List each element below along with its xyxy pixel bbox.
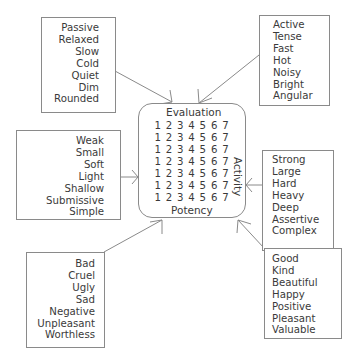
word: Light	[16, 171, 104, 183]
word: Dim	[41, 82, 99, 94]
word-list-mid-left: Weak Small Soft Light Shallow Submissive…	[16, 135, 104, 218]
word: Worthless	[26, 329, 95, 341]
word: Pleasant	[272, 313, 318, 325]
word-list-bottom-left: Bad Cruel Ugly Sad Negative Unpleasant W…	[26, 258, 95, 341]
arrow-bottom-left	[104, 220, 162, 252]
scale-row: 1234567	[152, 180, 231, 191]
scale-row: 1234567	[152, 168, 231, 179]
word: Shallow	[16, 183, 104, 195]
word: Angular	[273, 90, 313, 102]
word: Weak	[16, 135, 104, 147]
arrow-top-left	[115, 71, 172, 102]
word: Good	[272, 253, 318, 265]
word: Assertive	[272, 214, 319, 226]
arrowhead-bottom-left	[150, 220, 162, 234]
scale-grid: 1234567 1234567 1234567 1234567 1234567 …	[138, 120, 246, 204]
word: Negative	[26, 306, 95, 318]
word: Active	[273, 19, 313, 31]
word: Small	[16, 147, 104, 159]
scale-row: 1234567	[152, 132, 231, 143]
word: Fast	[273, 43, 313, 55]
word: Bright	[273, 79, 313, 91]
scale-row: 1234567	[152, 156, 231, 167]
word-list-top-left: Passive Relaxed Slow Cold Quiet Dim Roun…	[41, 22, 99, 105]
word: Relaxed	[41, 34, 99, 46]
word: Cold	[41, 58, 99, 70]
word: Positive	[272, 301, 318, 313]
potency-label: Potency	[171, 204, 213, 216]
word: Slow	[41, 46, 99, 58]
word-list-bottom-right: Good Kind Beautiful Happy Positive Pleas…	[272, 253, 318, 336]
word: Tense	[273, 31, 313, 43]
arrow-top-right	[199, 55, 259, 103]
word-list-top-right: Active Tense Fast Hot Noisy Bright Angul…	[273, 19, 313, 102]
word: Cruel	[26, 270, 95, 282]
scale-row: 1234567	[152, 120, 231, 131]
word: Happy	[272, 289, 318, 301]
word: Passive	[41, 22, 99, 34]
word-list-mid-right: Strong Large Hard Heavy Deep Assertive C…	[272, 154, 319, 237]
word: Valuable	[272, 324, 318, 336]
word: Heavy	[272, 190, 319, 202]
word: Complex	[272, 225, 319, 237]
word: Submissive	[16, 195, 104, 207]
word: Hard	[272, 178, 319, 190]
activity-label: Activity	[232, 157, 244, 196]
word: Soft	[16, 159, 104, 171]
word: Rounded	[41, 93, 99, 105]
word: Large	[272, 166, 319, 178]
scale-row: 1234567	[152, 144, 231, 155]
word: Kind	[272, 265, 318, 277]
word: Unpleasant	[26, 318, 95, 330]
word: Deep	[272, 202, 319, 214]
word: Quiet	[41, 70, 99, 82]
word: Noisy	[273, 67, 313, 79]
word: Sad	[26, 294, 95, 306]
word: Strong	[272, 154, 319, 166]
word: Bad	[26, 258, 95, 270]
evaluation-label: Evaluation	[166, 106, 221, 118]
arrowhead-top-right	[198, 89, 212, 103]
word: Simple	[16, 206, 104, 218]
word: Ugly	[26, 282, 95, 294]
word: Beautiful	[272, 277, 318, 289]
word: Hot	[273, 55, 313, 67]
arrow-bottom-right	[238, 220, 264, 248]
scale-row: 1234567	[152, 192, 231, 203]
